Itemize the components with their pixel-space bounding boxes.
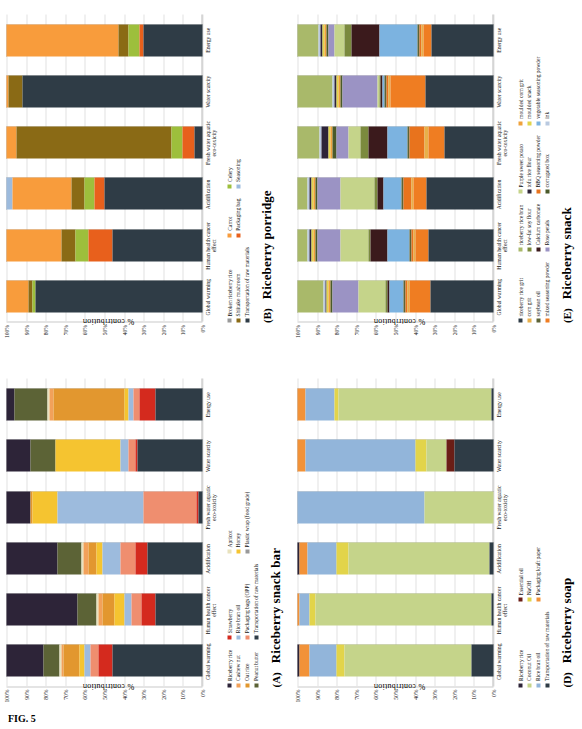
stacked-bar[interactable]: [6, 75, 202, 107]
bar-segment[interactable]: [141, 593, 155, 625]
legend-item[interactable]: Broken riceberry rice: [226, 247, 234, 323]
stacked-bar[interactable]: [297, 280, 493, 312]
bar-segment[interactable]: [6, 542, 57, 574]
legend-item[interactable]: Rice bran oil: [234, 563, 242, 639]
bar-segment[interactable]: [102, 593, 114, 625]
legend-item[interactable]: Calcium carbonate: [534, 203, 542, 251]
legend-item[interactable]: riceberry rice bran: [517, 203, 525, 251]
stacked-bar[interactable]: [6, 542, 202, 574]
legend-item[interactable]: soybean oil: [534, 261, 542, 322]
bar-segment[interactable]: [35, 280, 202, 312]
bar-segment[interactable]: [413, 178, 427, 210]
stacked-bar[interactable]: [6, 229, 202, 261]
bar-segment[interactable]: [428, 229, 493, 261]
bar-segment[interactable]: [182, 126, 194, 158]
bar-segment[interactable]: [454, 440, 493, 472]
bar-segment[interactable]: [370, 229, 388, 261]
legend-item[interactable]: Rose petals: [543, 203, 551, 251]
legend-item[interactable]: Celery: [226, 159, 234, 188]
legend-item[interactable]: Cashew nut: [234, 649, 242, 687]
bar-segment[interactable]: [96, 542, 102, 574]
legend-item[interactable]: Essential oil: [517, 546, 525, 601]
bar-segment[interactable]: [390, 75, 425, 107]
legend-item[interactable]: Riceberry rice: [517, 611, 525, 687]
bar-segment[interactable]: [425, 75, 493, 107]
bar-segment[interactable]: [423, 24, 431, 56]
bar-segment[interactable]: [98, 593, 102, 625]
bar-segment[interactable]: [383, 178, 401, 210]
bar-segment[interactable]: [344, 645, 471, 677]
bar-segment[interactable]: [334, 388, 338, 420]
bar-segment[interactable]: [6, 24, 118, 56]
bar-segment[interactable]: [338, 388, 491, 420]
bar-segment[interactable]: [315, 593, 491, 625]
bar-segment[interactable]: [348, 126, 360, 158]
bar-segment[interactable]: [299, 645, 309, 677]
bar-segment[interactable]: [426, 440, 446, 472]
bar-segment[interactable]: [104, 178, 202, 210]
bar-segment[interactable]: [328, 24, 334, 56]
legend-item[interactable]: Apricot: [226, 491, 234, 553]
bar-segment[interactable]: [297, 440, 305, 472]
bar-segment[interactable]: [340, 178, 373, 210]
stacked-bar[interactable]: [6, 388, 202, 420]
bar-segment[interactable]: [309, 593, 315, 625]
bar-segment[interactable]: [12, 178, 71, 210]
bar-segment[interactable]: [77, 593, 97, 625]
bar-segment[interactable]: [344, 24, 352, 56]
bar-segment[interactable]: [297, 75, 332, 107]
bar-segment[interactable]: [336, 542, 348, 574]
legend-item[interactable]: Seasoning: [234, 159, 242, 188]
bar-segment[interactable]: [377, 178, 383, 210]
bar-segment[interactable]: [297, 126, 319, 158]
bar-segment[interactable]: [360, 126, 368, 158]
bar-segment[interactable]: [14, 388, 47, 420]
bar-segment[interactable]: [49, 388, 53, 420]
legend-item[interactable]: vegetable seasoning powder: [534, 56, 542, 125]
bar-segment[interactable]: [120, 542, 136, 574]
bar-segment[interactable]: [71, 178, 85, 210]
legend-item[interactable]: Carrot: [226, 198, 234, 237]
bar-segment[interactable]: [32, 280, 36, 312]
legend-item[interactable]: Strawberry: [226, 563, 234, 639]
bar-segment[interactable]: [6, 388, 14, 420]
bar-segment[interactable]: [57, 491, 143, 523]
bar-segment[interactable]: [297, 388, 305, 420]
bar-segment[interactable]: [305, 388, 334, 420]
bar-segment[interactable]: [297, 491, 424, 523]
bar-segment[interactable]: [128, 24, 140, 56]
legend-item[interactable]: Riceberry rice: [226, 649, 234, 687]
bar-segment[interactable]: [342, 75, 377, 107]
bar-segment[interactable]: [6, 440, 30, 472]
bar-segment[interactable]: [114, 593, 124, 625]
legend-item[interactable]: Packaging bag: [234, 198, 242, 237]
bar-segment[interactable]: [336, 645, 344, 677]
bar-segment[interactable]: [16, 126, 171, 158]
stacked-bar[interactable]: [6, 491, 202, 523]
bar-segment[interactable]: [118, 24, 128, 56]
bar-segment[interactable]: [139, 24, 143, 56]
bar-segment[interactable]: [299, 593, 309, 625]
legend-item[interactable]: Rice bran oil: [534, 611, 542, 687]
bar-segment[interactable]: [84, 178, 94, 210]
legend-item[interactable]: tofu rice flour: [525, 135, 533, 194]
bar-segment[interactable]: [317, 229, 341, 261]
bar-segment[interactable]: [415, 440, 427, 472]
bar-segment[interactable]: [8, 75, 22, 107]
bar-segment[interactable]: [143, 491, 196, 523]
bar-segment[interactable]: [6, 280, 28, 312]
bar-segment[interactable]: [358, 280, 385, 312]
stacked-bar[interactable]: [6, 178, 202, 210]
legend-item[interactable]: Coconut Oil: [525, 611, 533, 687]
bar-segment[interactable]: [57, 542, 81, 574]
bar-segment[interactable]: [22, 75, 202, 107]
stacked-bar[interactable]: [297, 491, 493, 523]
stacked-bar[interactable]: [297, 24, 493, 56]
bar-segment[interactable]: [379, 24, 418, 56]
bar-segment[interactable]: [309, 645, 336, 677]
bar-segment[interactable]: [491, 593, 493, 625]
stacked-bar[interactable]: [297, 178, 493, 210]
bar-segment[interactable]: [98, 645, 112, 677]
stacked-bar[interactable]: [297, 440, 493, 472]
bar-segment[interactable]: [124, 593, 132, 625]
